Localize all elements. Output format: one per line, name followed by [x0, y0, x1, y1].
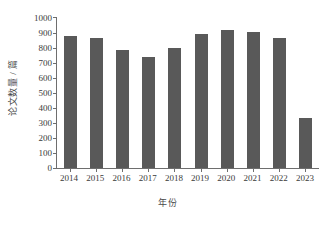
- bar: [299, 118, 312, 168]
- bar: [273, 38, 286, 169]
- y-axis-tick-label: 300: [39, 119, 53, 128]
- bar-slot: [109, 18, 135, 168]
- y-axis-tick-label: 400: [39, 104, 53, 113]
- x-axis-tick-label: 2020: [213, 171, 239, 185]
- y-axis-tick-label: 600: [39, 74, 53, 83]
- y-axis-tick-label: 900: [39, 29, 53, 38]
- y-axis-title: 论文数量 / 篇: [4, 0, 22, 175]
- y-axis-tick-mark: [53, 33, 57, 34]
- plot-area: [56, 18, 319, 169]
- x-axis-tick-label: 2021: [239, 171, 265, 185]
- x-axis-tick-label: 2023: [292, 171, 318, 185]
- bar-slot: [214, 18, 240, 168]
- bar: [90, 38, 103, 169]
- y-axis-tick-mark: [53, 153, 57, 154]
- x-axis-tick-label: 2019: [187, 171, 213, 185]
- y-axis-tick-label: 100: [39, 149, 53, 158]
- bar: [247, 32, 260, 168]
- bar-slot: [293, 18, 319, 168]
- y-axis-tick-label: 200: [39, 134, 53, 143]
- y-axis-tick-mark: [53, 93, 57, 94]
- y-axis-tick-label: 0: [48, 164, 53, 173]
- x-axis-tick-labels: 2014201520162017201820192020202120222023: [56, 171, 318, 185]
- x-axis-title: 年份: [0, 196, 335, 209]
- y-axis-title-text: 论文数量 / 篇: [9, 59, 18, 115]
- bar: [142, 57, 155, 168]
- bar: [64, 36, 77, 168]
- bar-slot: [188, 18, 214, 168]
- bar: [168, 48, 181, 168]
- y-axis-tick-label: 800: [39, 44, 53, 53]
- bar-slot: [267, 18, 293, 168]
- y-axis-tick-label: 700: [39, 59, 53, 68]
- bar-slot: [136, 18, 162, 168]
- y-axis-tick-mark: [53, 108, 57, 109]
- x-axis-tick-label: 2015: [82, 171, 108, 185]
- y-axis-tick-label: 500: [39, 89, 53, 98]
- y-axis-tick-mark: [53, 63, 57, 64]
- bar-slot: [57, 18, 83, 168]
- bar: [195, 34, 208, 168]
- y-axis-tick-mark: [53, 138, 57, 139]
- y-axis-tick-mark: [53, 123, 57, 124]
- x-axis-tick-label: 2022: [266, 171, 292, 185]
- x-axis-tick-label: 2016: [108, 171, 134, 185]
- bar-chart-figure: 论文数量 / 篇 0100200300400500600700800900100…: [0, 0, 335, 226]
- y-axis-tick-label: 1000: [34, 14, 52, 23]
- bar: [221, 30, 234, 168]
- bar-series: [57, 18, 319, 168]
- bar: [116, 50, 129, 169]
- x-axis-tick-label: 2018: [161, 171, 187, 185]
- bar-slot: [83, 18, 109, 168]
- bar-slot: [240, 18, 266, 168]
- y-axis-tick-mark: [53, 48, 57, 49]
- y-axis-tick-mark: [53, 78, 57, 79]
- x-axis-tick-label: 2014: [56, 171, 82, 185]
- x-axis-tick-label: 2017: [135, 171, 161, 185]
- y-axis-tick-mark: [53, 168, 57, 169]
- y-axis-tick-labels: 01002003004005006007008009001000: [22, 14, 52, 172]
- bar-slot: [162, 18, 188, 168]
